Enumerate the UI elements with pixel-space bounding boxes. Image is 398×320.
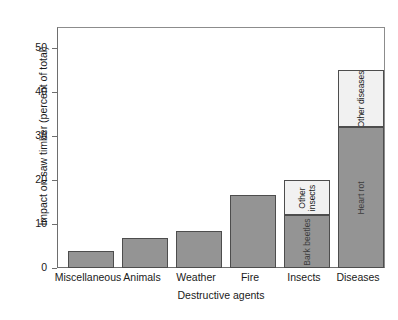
y-tick-label-10: 10 (35, 217, 47, 229)
y-tick-label-20: 20 (35, 173, 47, 185)
bar-weather[interactable] (176, 231, 222, 268)
bar-diseases[interactable]: Heart rot Other diseases (338, 70, 384, 268)
bars-container: Bark beetles Other insects Heart rot Oth… (58, 28, 384, 268)
y-tick-mark-10 (52, 224, 57, 225)
y-tick-mark-40 (52, 92, 57, 93)
segment-label-other-insects: Other insects (297, 181, 317, 215)
y-tick-label-30: 30 (35, 129, 47, 141)
y-tick-mark-0 (52, 268, 57, 269)
bar-insects[interactable]: Bark beetles Other insects (284, 180, 330, 268)
segment-label-other-diseases: Other diseases (356, 70, 366, 127)
bar-segment-other-insects[interactable]: Other insects (284, 180, 330, 215)
x-label-diseases: Diseases (310, 271, 398, 283)
bar-segment-weather[interactable] (176, 231, 222, 268)
bar-segment-other-diseases[interactable]: Other diseases (338, 70, 384, 127)
bar-chart-figure: Impact on saw timber (percent of total) … (0, 0, 398, 320)
bar-fire[interactable] (230, 195, 276, 268)
y-tick-mark-20 (52, 180, 57, 181)
bar-miscellaneous[interactable] (68, 251, 114, 268)
segment-label-bark-beetles: Bark beetles (302, 218, 312, 265)
segment-label-heart-rot: Heart rot (356, 181, 366, 214)
bar-segment-animals[interactable] (122, 238, 168, 268)
x-axis-title: Destructive agents (57, 289, 385, 301)
y-tick-mark-50 (52, 48, 57, 49)
y-tick-label-50: 50 (35, 41, 47, 53)
y-tick-label-40: 40 (35, 85, 47, 97)
bar-segment-heart-rot[interactable]: Heart rot (338, 127, 384, 268)
bar-segment-fire[interactable] (230, 195, 276, 268)
y-tick-mark-30 (52, 136, 57, 137)
bar-segment-miscellaneous[interactable] (68, 251, 114, 268)
bar-segment-bark-beetles[interactable]: Bark beetles (284, 215, 330, 268)
bar-animals[interactable] (122, 238, 168, 268)
